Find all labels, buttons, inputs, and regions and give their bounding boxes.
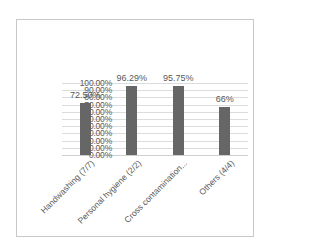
bar — [80, 103, 91, 155]
data-label: 72.50% — [70, 90, 101, 100]
data-label: 95.75% — [163, 73, 194, 83]
bar — [126, 86, 137, 155]
y-tick-label: 100.00% — [80, 79, 112, 87]
bar — [173, 86, 184, 155]
bar — [219, 107, 230, 155]
data-label: 66% — [216, 94, 234, 104]
data-label: 96.29% — [116, 73, 147, 83]
